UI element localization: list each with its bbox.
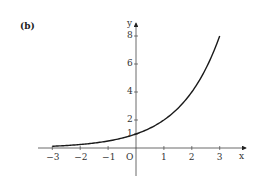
x-tick-label: 3 xyxy=(217,153,223,162)
y-tick-label: 6 xyxy=(127,59,133,68)
y-tick-label: 1 xyxy=(127,129,133,138)
y-tick-label: 4 xyxy=(127,87,133,96)
y-tick-label: 8 xyxy=(127,31,133,40)
x-tick-label: 2 xyxy=(189,153,195,162)
x-tick-label: 1 xyxy=(161,153,167,162)
x-tick-label: −3 xyxy=(46,153,59,162)
y-axis-label: y xyxy=(127,19,132,28)
x-tick-label: −2 xyxy=(74,153,87,162)
x-axis-label: x xyxy=(239,152,244,161)
x-tick-label: −1 xyxy=(102,153,115,162)
y-tick-label: 2 xyxy=(127,115,133,124)
origin-label: O xyxy=(126,153,133,162)
